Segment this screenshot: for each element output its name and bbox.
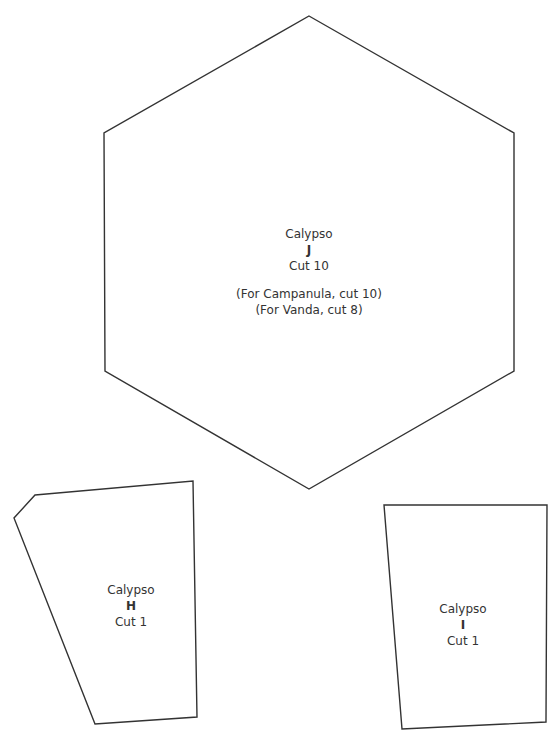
- piece-i-cut-count: Cut 1: [439, 633, 486, 649]
- piece-j-label: Calypso J Cut 10 (For Campanula, cut 10)…: [236, 226, 382, 318]
- piece-j-cut-count: Cut 10: [236, 258, 382, 274]
- pattern-page: Calypso J Cut 10 (For Campanula, cut 10)…: [0, 0, 557, 745]
- piece-j-note-campanula: (For Campanula, cut 10): [236, 286, 382, 302]
- piece-j-pattern-name: Calypso: [236, 226, 382, 242]
- spacer: [236, 274, 382, 286]
- piece-h-label: Calypso H Cut 1: [107, 582, 154, 630]
- piece-h-letter: H: [107, 598, 154, 614]
- piece-j-note-vanda: (For Vanda, cut 8): [236, 302, 382, 318]
- piece-h-pattern-name: Calypso: [107, 582, 154, 598]
- piece-i-letter: I: [439, 617, 486, 633]
- piece-i-label: Calypso I Cut 1: [439, 601, 486, 649]
- piece-h-outline: [14, 481, 197, 724]
- piece-j-letter: J: [236, 242, 382, 258]
- piece-i-pattern-name: Calypso: [439, 601, 486, 617]
- piece-h-cut-count: Cut 1: [107, 614, 154, 630]
